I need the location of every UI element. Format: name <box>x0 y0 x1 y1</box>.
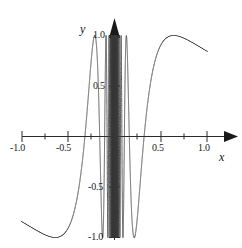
plot-canvas <box>0 0 242 248</box>
x-axis-arrow-icon <box>224 131 238 142</box>
x-axis <box>22 131 238 142</box>
plot-figure: -1.0 -0.5 0.5 1.0 1.0 0.5 -0.5 -1.0 x y <box>0 0 242 248</box>
x-tick-label-1: 1.0 <box>198 142 210 153</box>
y-axis-label: y <box>80 22 85 37</box>
y-tick-label-neg-0-5: -0.5 <box>88 181 103 192</box>
x-tick-label-0-5: 0.5 <box>152 142 164 153</box>
y-tick-label-neg-1: -1.0 <box>88 231 103 242</box>
x-axis-label: x <box>219 150 224 165</box>
x-tick-label-neg-0-5: -0.5 <box>56 142 71 153</box>
y-tick-label-1: 1.0 <box>93 29 105 40</box>
x-tick-label-neg-1: -1.0 <box>10 142 25 153</box>
y-tick-label-0-5: 0.5 <box>93 80 105 91</box>
